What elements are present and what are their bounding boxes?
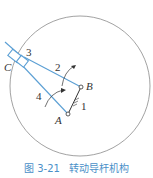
label-link-3: 3 bbox=[26, 46, 32, 58]
caption-number: 图 3-21 bbox=[24, 163, 60, 174]
rotating-guide-bar-mechanism-diagram: A B C 1 2 3 4 bbox=[0, 0, 153, 160]
caption-title: 转动导杆机构 bbox=[69, 163, 129, 174]
joint-B bbox=[79, 85, 83, 89]
label-link-4: 4 bbox=[36, 90, 42, 102]
arrowhead-link-2 bbox=[71, 65, 76, 69]
label-point-B: B bbox=[86, 80, 93, 92]
rotation-arrow-link-2 bbox=[62, 66, 74, 86]
figure-caption: 图 3-21转动导杆机构 bbox=[0, 160, 153, 175]
joint-A bbox=[66, 112, 70, 116]
label-link-2: 2 bbox=[55, 61, 61, 73]
label-link-1: 1 bbox=[81, 100, 87, 112]
arrowhead-link-4 bbox=[61, 88, 66, 93]
label-point-A: A bbox=[54, 114, 62, 126]
crank-link-1 bbox=[68, 87, 81, 114]
label-point-C: C bbox=[4, 61, 12, 73]
